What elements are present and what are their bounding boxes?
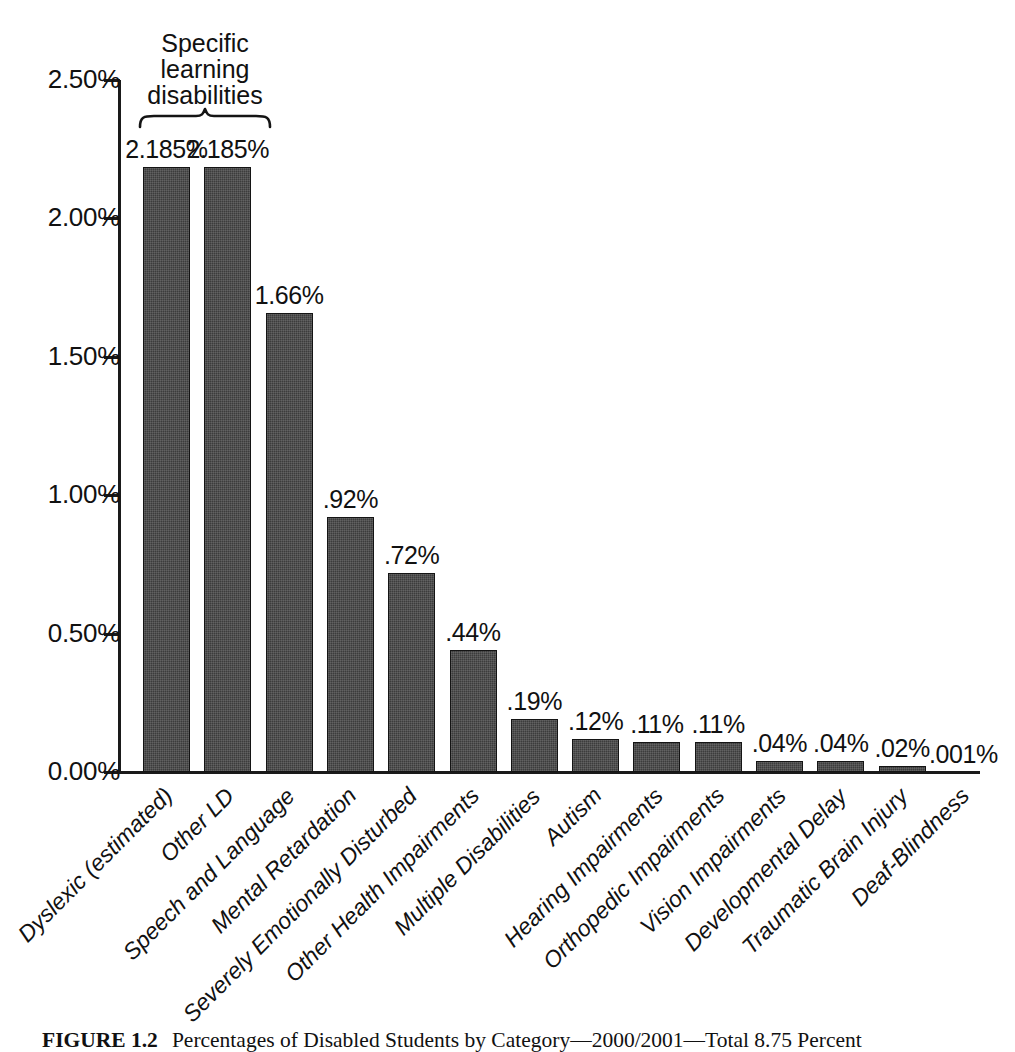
figure-caption-text: Percentages of Disabled Students by Cate… bbox=[172, 1028, 862, 1052]
figure-number: FIGURE 1.2 bbox=[42, 1028, 158, 1052]
x-axis-category-labels: Dyslexic (estimated)Other LDSpeech and L… bbox=[0, 0, 1015, 1000]
figure-caption: FIGURE 1.2Percentages of Disabled Studen… bbox=[42, 1028, 1002, 1052]
bar-chart: 0.00%0.50%1.00%1.50%2.00%2.50% 2.185%2.1… bbox=[0, 0, 1015, 1000]
